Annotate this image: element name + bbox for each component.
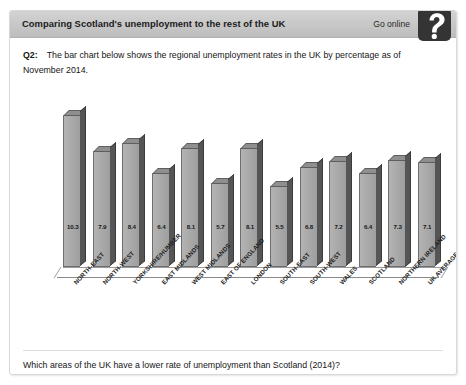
x-label-slot: NORTH-WEST [87, 281, 117, 343]
question-text: The bar chart below shows the regional u… [23, 50, 401, 75]
page-title: Comparing Scotland's unemployment to the… [22, 18, 285, 29]
footer-question: Which areas of the UK have a lower rate … [23, 359, 443, 372]
x-label-slot: SOUTH-EAST [264, 281, 294, 343]
bar-slot: 5.5 [264, 97, 294, 267]
x-label-slot: LONDON [234, 281, 264, 343]
bar-value-label: 6.8 [301, 223, 318, 230]
x-label-slot: SCOTLAND [352, 281, 382, 343]
bar-value-label: 7.1 [419, 223, 436, 230]
header-bar: Comparing Scotland's unemployment to the… [10, 11, 456, 38]
x-label-slot: SOUTH-WEST [293, 281, 323, 343]
bar-value-label: 6.4 [360, 223, 377, 230]
bar-side-face [228, 174, 234, 266]
bars-container: 10.37.98.46.48.15.78.15.56.87.26.47.37.1 [57, 97, 441, 267]
question-mark-icon[interactable] [418, 10, 451, 41]
bar-side-face [169, 164, 175, 266]
bar-value-label: 7.3 [389, 223, 406, 230]
bar-value-label: 6.4 [153, 223, 170, 230]
x-label-slot: YORKSHIRE/HUMBER [116, 281, 146, 343]
x-label-slot: NORTH-EAST [57, 281, 87, 343]
bar-slot: 8.1 [175, 97, 205, 267]
bar-slot: 10.3 [57, 97, 87, 267]
bar-value-label: 7.9 [94, 223, 111, 230]
x-label-slot: UK AVERAGE [411, 281, 441, 343]
x-label-slot: WALES [323, 281, 353, 343]
bar-side-face [317, 158, 323, 266]
x-label-slot: EAST MIDLANDS [146, 281, 176, 343]
go-online-link[interactable]: Go online [373, 19, 410, 29]
bar-slot: 7.2 [323, 97, 353, 267]
chart-plot-area: 10.37.98.46.48.15.78.15.56.87.26.47.37.1 [57, 97, 441, 267]
bar-side-face [139, 134, 145, 266]
bar[interactable]: 7.9 [93, 151, 110, 267]
bar[interactable]: 5.5 [270, 186, 287, 267]
bar-value-label: 5.7 [212, 223, 229, 230]
bar-slot: 8.4 [116, 97, 146, 267]
bar-slot: 7.9 [87, 97, 117, 267]
x-label-slot: EAST OF ENGLAND [205, 281, 235, 343]
bar-value-label: 5.5 [271, 223, 288, 230]
x-label-slot: WEST MIDLANDS [175, 281, 205, 343]
bar-chart: 10.37.98.46.48.15.78.15.56.87.26.47.37.1… [23, 97, 445, 337]
question-prompt: Q2:The bar chart below shows the regiona… [23, 48, 433, 77]
question-number: Q2: [23, 50, 38, 60]
bar-slot: 6.4 [352, 97, 382, 267]
floor-front-edge [57, 277, 439, 278]
bar[interactable]: 6.4 [359, 173, 376, 267]
bar-side-face [346, 152, 352, 266]
bar-value-label: 7.2 [330, 223, 347, 230]
bar-slot: 5.7 [205, 97, 235, 267]
bar-slot: 6.8 [293, 97, 323, 267]
x-label-slot: NORTHERN IRELAND [382, 281, 412, 343]
bar[interactable]: 10.3 [63, 115, 80, 267]
bar[interactable]: 7.3 [388, 160, 405, 268]
bar-side-face [405, 150, 411, 266]
bar-slot: 7.3 [382, 97, 412, 267]
bar-side-face [376, 164, 382, 266]
bar-value-label: 8.4 [123, 223, 140, 230]
bar-side-face [110, 142, 116, 266]
bar-side-face [287, 177, 293, 266]
bar[interactable]: 8.4 [122, 143, 139, 267]
footer-divider [23, 350, 443, 351]
worksheet-card: Comparing Scotland's unemployment to the… [9, 10, 457, 375]
bar-side-face [80, 106, 86, 266]
bar-value-label: 8.1 [182, 223, 199, 230]
bar-value-label: 10.3 [64, 223, 81, 230]
x-axis-labels: NORTH-EASTNORTH-WESTYORKSHIRE/HUMBEREAST… [57, 281, 441, 343]
bar-value-label: 8.1 [241, 223, 258, 230]
